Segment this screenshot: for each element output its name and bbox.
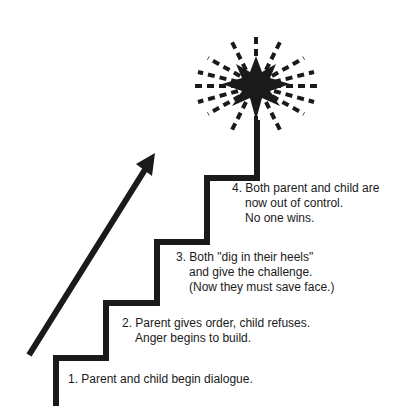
- step-3-label: 3. Both "dig in their heels" and give th…: [176, 250, 334, 295]
- step-3-line-3: (Now they must save face.): [176, 280, 334, 295]
- step-4-line-3: No one wins.: [232, 211, 379, 226]
- step-2-line-2: Anger begins to build.: [122, 331, 310, 346]
- step-3-line-2: and give the challenge.: [176, 265, 334, 280]
- step-2-line-1: 2. Parent gives order, child refuses.: [122, 316, 310, 331]
- step-4-line-2: now out of control.: [232, 196, 379, 211]
- step-2-label: 2. Parent gives order, child refuses. An…: [122, 316, 310, 346]
- step-4-label: 4. Both parent and child are now out of …: [232, 181, 379, 226]
- step-1-line-1: 1. Parent and child begin dialogue.: [68, 372, 253, 387]
- step-4-line-1: 4. Both parent and child are: [232, 181, 379, 196]
- step-3-line-1: 3. Both "dig in their heels": [176, 250, 334, 265]
- explosion-starburst-icon: [194, 34, 318, 138]
- step-1-label: 1. Parent and child begin dialogue.: [68, 372, 253, 387]
